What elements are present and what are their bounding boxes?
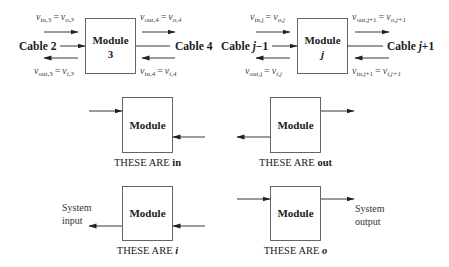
system-output-label-line2: output bbox=[355, 216, 381, 227]
eq-vin-j-plus-1: vin,j+1=vi,j+1 bbox=[352, 65, 401, 78]
system-input-label-line2: input bbox=[62, 215, 83, 226]
i-example-group: Module System input THESE ARE i bbox=[62, 187, 205, 257]
eq-vout-j-plus-1: vout,j+1=vo,j+1 bbox=[352, 11, 406, 24]
cable-j-plus-1-label: Cable j+1 bbox=[387, 40, 434, 53]
system-output-label-line1: System bbox=[355, 203, 385, 214]
module-3-number: 3 bbox=[108, 48, 114, 60]
eq-vout-j: vout,j=vi,j bbox=[245, 65, 282, 78]
caption-i: THESE ARE i bbox=[117, 245, 178, 256]
eq-vin4: vin,4=vi,4 bbox=[140, 65, 177, 78]
cable-j-minus-1-label: Cable j−1 bbox=[221, 40, 268, 53]
eq-vout4: vout,4=vo,4 bbox=[140, 11, 182, 24]
module-cable-diagram: Module 3 Cable 2 Cable 4 vin,3=vo,3 vout… bbox=[0, 0, 449, 267]
caption-out: THESE ARE out bbox=[259, 157, 332, 168]
caption-o: THESE ARE o bbox=[264, 245, 328, 256]
system-input-label-line1: System bbox=[62, 202, 92, 213]
module-3-label: Module bbox=[92, 34, 128, 46]
module-label: Module bbox=[129, 119, 165, 131]
module-label: Module bbox=[129, 207, 165, 219]
module-j-group: Module j Cable j−1 Cable j+1 vin,j=vo,j … bbox=[221, 11, 434, 78]
eq-vout3: vout,3=vi,3 bbox=[34, 65, 74, 78]
in-example-group: Module THESE ARE in bbox=[89, 98, 205, 169]
out-example-group: Module THESE ARE out bbox=[237, 98, 354, 169]
module-3-group: Module 3 Cable 2 Cable 4 vin,3=vo,3 vout… bbox=[19, 11, 213, 78]
caption-in: THESE ARE in bbox=[114, 157, 181, 168]
cable-4-label: Cable 4 bbox=[175, 40, 213, 52]
module-3-box bbox=[86, 19, 136, 74]
cable-2-label: Cable 2 bbox=[19, 40, 57, 52]
module-j-box bbox=[298, 19, 348, 74]
eq-vin3: vin,3=vo,3 bbox=[36, 11, 75, 24]
o-example-group: Module System output THESE ARE o bbox=[237, 187, 385, 257]
module-label: Module bbox=[277, 207, 313, 219]
module-label: Module bbox=[277, 119, 313, 131]
module-j-label: Module bbox=[304, 34, 340, 46]
eq-vin-j: vin,j=vo,j bbox=[250, 11, 285, 24]
